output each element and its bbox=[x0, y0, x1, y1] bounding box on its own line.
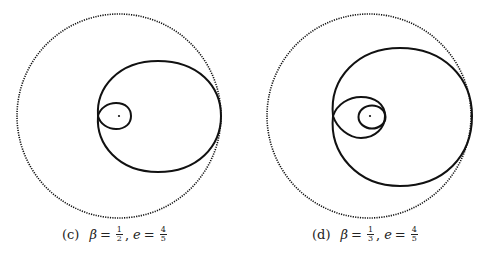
e-fraction: 4 5 bbox=[160, 226, 167, 243]
beta-fraction: 1 2 bbox=[116, 226, 123, 243]
equals-sign: = bbox=[351, 227, 362, 242]
inner-loop-curve bbox=[98, 103, 131, 129]
center-point bbox=[118, 115, 120, 117]
e-symbol: e bbox=[384, 227, 392, 242]
separator: , bbox=[125, 227, 129, 242]
e-denominator: 5 bbox=[412, 235, 417, 243]
equals-sign: = bbox=[100, 227, 111, 242]
panel-tag: (d) bbox=[312, 227, 330, 242]
outer-loop-curve bbox=[333, 48, 472, 186]
panel-tag: (c) bbox=[62, 227, 79, 242]
caption-d: (d) β = 1 3 , e = 4 5 bbox=[312, 226, 420, 243]
equals-sign: = bbox=[395, 227, 406, 242]
inner-loop-curve bbox=[359, 106, 386, 129]
trajectory-plot-c bbox=[0, 0, 243, 220]
caption-c: (c) β = 1 2 , e = 4 5 bbox=[62, 226, 169, 243]
e-symbol: e bbox=[133, 227, 141, 242]
beta-denominator: 3 bbox=[368, 235, 373, 243]
beta-symbol: β bbox=[340, 227, 348, 242]
separator: , bbox=[376, 227, 380, 242]
outer-loop-curve bbox=[98, 61, 221, 172]
beta-denominator: 2 bbox=[117, 235, 122, 243]
equals-sign: = bbox=[144, 227, 155, 242]
panel-c: (c) β = 1 2 , e = 4 5 bbox=[0, 0, 243, 262]
trajectory-plot-d bbox=[243, 0, 486, 220]
beta-symbol: β bbox=[89, 227, 97, 242]
panel-d: (d) β = 1 3 , e = 4 5 bbox=[243, 0, 486, 262]
beta-fraction: 1 3 bbox=[367, 226, 374, 243]
e-fraction: 4 5 bbox=[411, 226, 418, 243]
center-point bbox=[369, 115, 371, 117]
e-denominator: 5 bbox=[161, 235, 166, 243]
